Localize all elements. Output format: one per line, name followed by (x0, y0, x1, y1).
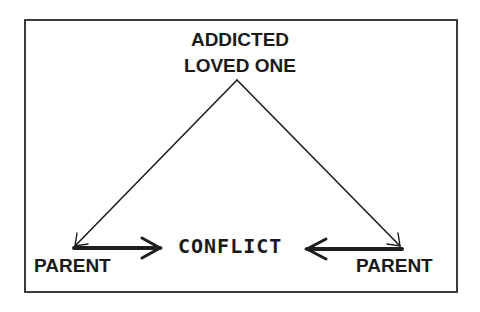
node-addicted-loved-one: ADDICTED LOVED ONE (165, 27, 315, 79)
edge-top-to-left (75, 80, 237, 246)
node-parent-right: PARENT (356, 255, 433, 277)
node-top-line1: ADDICTED (165, 27, 315, 53)
edge-top-to-right (237, 80, 400, 246)
node-top-line2: LOVED ONE (165, 53, 315, 79)
node-parent-left: PARENT (34, 255, 111, 277)
center-label-conflict: CONFLICT (178, 234, 282, 258)
